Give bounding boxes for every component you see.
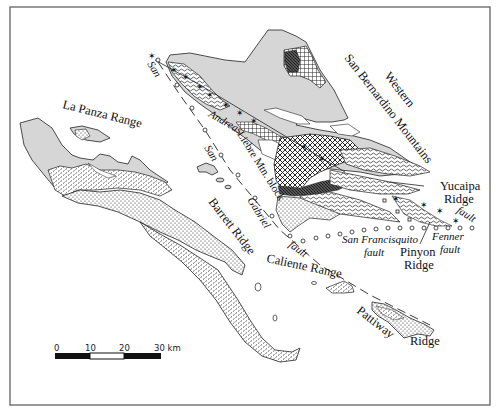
svg-text:✶: ✶ xyxy=(392,194,400,204)
label-la-panza-range: La Panza Range xyxy=(61,97,144,130)
scale-tick-30km: 30 km xyxy=(154,343,181,353)
label-san-gabriel-2: Gabriel xyxy=(245,195,273,230)
scale-tick-0: 0 xyxy=(54,343,59,353)
label-yucaipa-ridge: Ridge xyxy=(444,192,474,206)
label-fenner-2: fault xyxy=(440,243,461,255)
svg-text:✶: ✶ xyxy=(206,90,214,100)
geologic-map: ✶ ✶ ✶ ✶ ✶ ✶ ✶ ✶ ✶ ✶ ✶ ✶ ✶ ✶ La Panza Ran… xyxy=(0,0,498,411)
svg-text:✶: ✶ xyxy=(236,108,244,118)
svg-text:✶: ✶ xyxy=(420,200,428,210)
label-san-andreas-1: San xyxy=(145,59,164,80)
scale-tick-10: 10 xyxy=(85,343,96,353)
pinyon-ridge-leader xyxy=(420,222,430,244)
svg-text:✶: ✶ xyxy=(222,100,230,110)
svg-text:✶: ✶ xyxy=(300,142,308,152)
svg-text:✶: ✶ xyxy=(196,82,204,92)
label-san-francisquito-2: fault xyxy=(364,246,385,258)
svg-text:✶: ✶ xyxy=(182,72,190,82)
label-pinyon: Pinyon xyxy=(400,245,436,259)
label-fenner-1: Fenner xyxy=(431,230,464,242)
svg-text:✶: ✶ xyxy=(318,154,326,164)
label-pattiway-ridge: Ridge xyxy=(410,334,440,348)
label-san-gabriel-1: San xyxy=(202,143,221,164)
svg-text:✶: ✶ xyxy=(250,116,258,126)
svg-text:✶: ✶ xyxy=(452,216,460,226)
label-san-francisquito-1: San Francisquito xyxy=(342,233,419,245)
scale-bar: 0 10 20 30 km xyxy=(54,343,181,359)
label-pinyon-ridge: Ridge xyxy=(404,258,434,272)
svg-text:✶: ✶ xyxy=(170,65,178,75)
svg-text:✶: ✶ xyxy=(436,206,444,216)
label-yucaipa: Yucaipa xyxy=(440,179,481,193)
scale-tick-20: 20 xyxy=(119,343,130,353)
